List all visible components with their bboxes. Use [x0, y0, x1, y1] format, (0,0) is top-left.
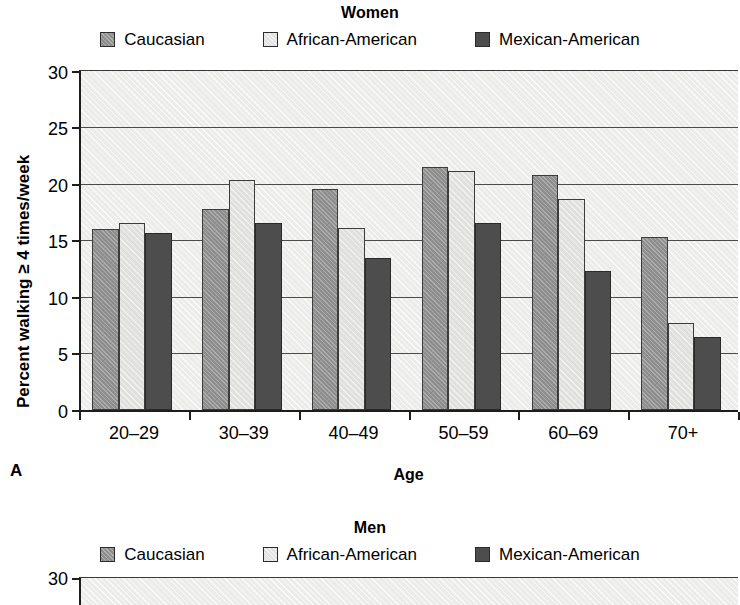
- legend-label-african-american: African-American: [287, 31, 417, 48]
- panel-label-a: A: [10, 461, 22, 481]
- bar-african-american-30-39: [229, 180, 256, 410]
- y-tick-label-30: 30: [28, 64, 68, 82]
- y-tick-label-10: 10: [28, 290, 68, 308]
- gridline-10: [81, 297, 738, 298]
- bar-mexican-american-70+: [694, 337, 721, 410]
- plot-area-men: [79, 577, 738, 605]
- legend-item-mexican-american: Mexican-American: [475, 31, 640, 48]
- x-tick-label-40-49: 40–49: [299, 424, 409, 442]
- legend-label-mexican-american: Mexican-American: [499, 31, 640, 48]
- y-tick-label-20: 20: [28, 177, 68, 195]
- caucasian-swatch: [100, 32, 115, 47]
- african-american-swatch: [263, 32, 278, 47]
- x-tick-label-50-59: 50–59: [409, 424, 519, 442]
- bar-african-american-40-49: [338, 228, 365, 410]
- gridline-20: [81, 184, 738, 185]
- bar-caucasian-50-59: [422, 167, 449, 410]
- bar-caucasian-20-29: [92, 229, 119, 410]
- x-tick-label-30-39: 30–39: [189, 424, 299, 442]
- gridline-5: [81, 353, 738, 354]
- mexican-american-swatch: [475, 547, 490, 562]
- bar-african-american-60-69: [558, 199, 585, 410]
- legend-label-mexican-american-men: Mexican-American: [499, 546, 640, 563]
- x-tick-mark-3: [409, 412, 411, 420]
- y-tick-label-25: 25: [28, 120, 68, 138]
- chart-title-men: Men: [0, 519, 740, 537]
- bar-mexican-american-20-29: [145, 233, 172, 410]
- gridline-25: [81, 127, 738, 128]
- legend-item-african-american: African-American: [263, 31, 417, 48]
- african-american-swatch: [263, 547, 278, 562]
- bar-mexican-american-30-39: [255, 223, 282, 410]
- x-tick-label-20-29: 20–29: [79, 424, 189, 442]
- caucasian-swatch: [100, 547, 115, 562]
- x-tick-mark-2: [299, 412, 301, 420]
- legend-label-caucasian: Caucasian: [124, 31, 204, 48]
- legend-women: Caucasian African-American Mexican-Ameri…: [0, 31, 740, 48]
- bar-caucasian-30-39: [202, 209, 229, 410]
- legend-label-african-american-men: African-American: [287, 546, 417, 563]
- bar-african-american-50-59: [448, 171, 475, 410]
- y-tick-label-5: 5: [28, 346, 68, 364]
- bar-african-american-70+: [668, 323, 695, 410]
- legend-item-mexican-american-men: Mexican-American: [475, 546, 640, 563]
- x-tick-mark-5: [628, 412, 630, 420]
- legend-item-caucasian: Caucasian: [100, 31, 204, 48]
- legend-item-caucasian-men: Caucasian: [100, 546, 204, 563]
- legend-men: Caucasian African-American Mexican-Ameri…: [0, 546, 740, 563]
- x-tick-mark-4: [518, 412, 520, 420]
- x-axis-title-women: Age: [79, 466, 738, 484]
- y-tick-label-30-men: 30: [28, 570, 68, 588]
- bar-caucasian-40-49: [312, 189, 339, 410]
- plot-area-women: [79, 70, 738, 412]
- x-tick-mark-1: [189, 412, 191, 420]
- bar-mexican-american-60-69: [585, 271, 612, 410]
- bar-caucasian-70+: [641, 237, 668, 410]
- x-tick-label-70+: 70+: [628, 424, 738, 442]
- y-tick-label-0: 0: [28, 403, 68, 421]
- y-tick-label-15: 15: [28, 233, 68, 251]
- x-tick-mark-0: [79, 412, 81, 420]
- bar-mexican-american-50-59: [475, 223, 502, 410]
- bar-mexican-american-40-49: [365, 258, 392, 410]
- chart-title-women: Women: [0, 4, 740, 22]
- legend-label-caucasian-men: Caucasian: [124, 546, 204, 563]
- x-tick-label-60-69: 60–69: [518, 424, 628, 442]
- gridline-15: [81, 240, 738, 241]
- legend-item-african-american-men: African-American: [263, 546, 417, 563]
- bar-african-american-20-29: [119, 223, 146, 410]
- bar-caucasian-60-69: [532, 175, 559, 410]
- mexican-american-swatch: [475, 32, 490, 47]
